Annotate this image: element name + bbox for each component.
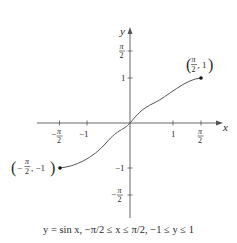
svg-text:(: ( — [11, 159, 16, 177]
svg-text:, 1: , 1 — [198, 60, 207, 70]
y-tick-label-neg-1: −1 — [115, 163, 125, 173]
x-tick-label-pi-over-2: π 2 — [198, 127, 204, 145]
svg-text:): ) — [50, 159, 55, 177]
svg-text:, −1: , −1 — [31, 163, 45, 173]
y-tick-label-1: 1 — [121, 73, 126, 83]
svg-text:π: π — [120, 42, 125, 51]
x-tick-label-1: 1 — [171, 129, 176, 139]
svg-text:π: π — [192, 55, 197, 64]
svg-text:): ) — [208, 56, 213, 74]
svg-text:2: 2 — [120, 51, 124, 60]
svg-text:−: − — [17, 163, 22, 173]
svg-text:2: 2 — [192, 65, 196, 74]
sine-graph-figure: x − π 2 −1 1 π 2 y — [0, 0, 237, 243]
endpoint-bottom-dot — [58, 166, 62, 170]
x-axis-label: x — [222, 121, 228, 133]
svg-text:−: − — [51, 129, 56, 139]
svg-text:π: π — [57, 127, 62, 136]
svg-text:2: 2 — [57, 136, 61, 145]
x-axis: x − π 2 −1 1 π 2 — [37, 121, 228, 146]
x-tick-label-neg-1: −1 — [79, 129, 89, 139]
y-tick-label-pi-over-2: π 2 — [119, 42, 125, 60]
svg-text:π: π — [25, 157, 30, 166]
point-label-bottom: ( − π 2 , −1 ) — [11, 157, 55, 177]
endpoint-top-dot — [199, 76, 203, 80]
figure-caption: y = sin x, −π/2 ≤ x ≤ π/2, −1 ≤ y ≤ 1 — [0, 224, 237, 235]
y-axis: y π 2 1 −1 − π 2 — [111, 25, 133, 218]
svg-text:−: − — [111, 189, 116, 199]
svg-text:2: 2 — [25, 167, 29, 176]
x-tick-label-neg-pi-over-2: − π 2 — [51, 127, 63, 145]
point-label-top: ( π 2 , 1 ) — [186, 55, 213, 74]
y-axis-arrow-icon — [128, 27, 133, 34]
svg-text:π: π — [198, 127, 203, 136]
y-axis-label: y — [119, 25, 125, 37]
x-axis-arrow-icon — [216, 121, 223, 126]
chart-canvas: x − π 2 −1 1 π 2 y — [0, 0, 237, 243]
svg-text:π: π — [118, 186, 123, 195]
svg-text:2: 2 — [198, 136, 202, 145]
svg-text:2: 2 — [118, 195, 122, 204]
y-tick-label-neg-pi-over-2: − π 2 — [111, 186, 123, 204]
